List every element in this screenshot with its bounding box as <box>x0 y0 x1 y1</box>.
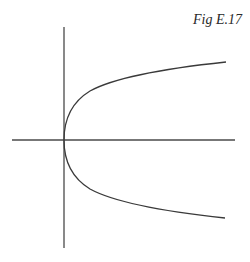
curve-lower-branch <box>64 140 225 218</box>
curve-upper-branch <box>64 62 226 140</box>
figure-canvas <box>0 0 250 262</box>
figure-caption: Fig E.17 <box>193 12 242 28</box>
